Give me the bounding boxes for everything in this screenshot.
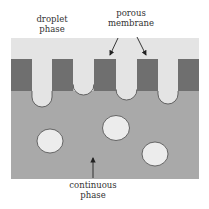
membrane-block [52,59,73,91]
diagram-canvas [0,0,209,209]
membrane-block [11,59,32,91]
droplet [37,129,63,153]
droplet-phase-label-line2: phase [36,24,67,34]
membrane-emulsification-diagram: droplet phase porous membrane continuous… [0,0,209,209]
continuous-phase-label-line2: phase [69,190,116,200]
continuous-phase-label-line1: continuous [69,180,116,190]
droplet [103,116,130,141]
droplet-phase-region [11,38,199,60]
pore-droplet [116,59,137,100]
membrane-block [137,59,158,91]
porous-membrane-label: porous membrane [108,8,154,28]
pore-droplet [32,59,52,107]
droplet-phase-label: droplet phase [36,14,67,34]
porous-membrane-label-line1: porous [108,8,154,18]
membrane-block [178,59,199,91]
membrane-block [94,59,116,91]
pore-droplet [73,59,94,95]
droplet [142,142,168,166]
continuous-phase-label: continuous phase [69,180,116,200]
porous-membrane-label-line2: membrane [108,18,154,28]
pore-droplet [158,59,178,104]
droplet-phase-label-line1: droplet [36,14,67,24]
